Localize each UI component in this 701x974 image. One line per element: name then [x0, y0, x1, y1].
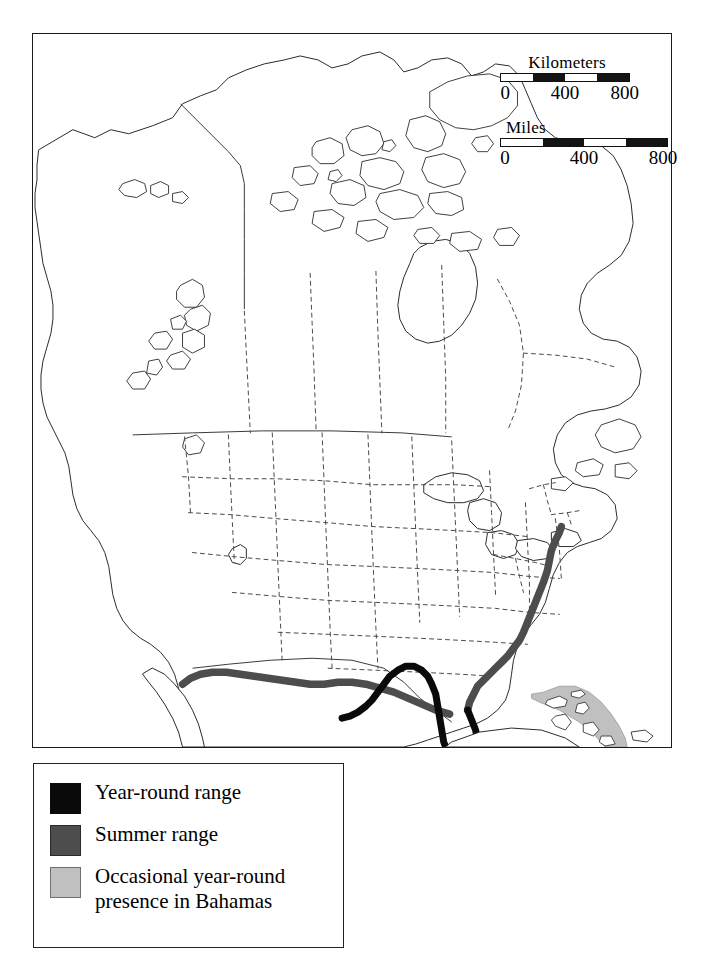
scale-tick: 400 [570, 147, 599, 169]
scale-tick: 0 [500, 82, 510, 104]
scale-kilometers-ticks: 0 400 800 [500, 82, 630, 104]
scale-segment [626, 139, 668, 146]
scale-segment [584, 139, 626, 146]
map-legend: Year-round range Summer range Occasional… [33, 763, 344, 948]
scale-segment [533, 74, 565, 81]
scale-bar-miles: Miles 0 400 800 [500, 118, 668, 169]
scale-segment [565, 74, 597, 81]
legend-swatch-summer [50, 825, 81, 856]
scale-segment [597, 74, 629, 81]
scale-segment [501, 139, 543, 146]
scale-kilometers-bar [500, 73, 630, 82]
legend-item-occasional: Occasional year-round presence in Bahama… [34, 864, 343, 914]
scale-segment [543, 139, 585, 146]
scale-miles-label: Miles [500, 118, 668, 137]
scale-miles-ticks: 0 400 800 [500, 147, 668, 169]
scale-miles-bar [500, 138, 668, 147]
legend-label-occasional: Occasional year-round presence in Bahama… [95, 864, 285, 914]
scale-tick: 0 [500, 147, 510, 169]
scale-tick: 400 [551, 82, 580, 104]
legend-swatch-year-round [50, 783, 81, 814]
legend-swatch-occasional [50, 867, 81, 898]
atlantic-islands [551, 419, 641, 491]
scale-segment [501, 74, 533, 81]
legend-label-summer: Summer range [95, 822, 218, 847]
scale-tick: 800 [649, 147, 678, 169]
legend-item-summer: Summer range [34, 822, 343, 856]
scale-bar-kilometers: Kilometers 0 400 800 [500, 53, 630, 104]
scale-tick: 800 [611, 82, 640, 104]
legend-item-year-round: Year-round range [34, 780, 343, 814]
scale-kilometers-label: Kilometers [500, 53, 630, 72]
legend-label-year-round: Year-round range [95, 780, 241, 805]
